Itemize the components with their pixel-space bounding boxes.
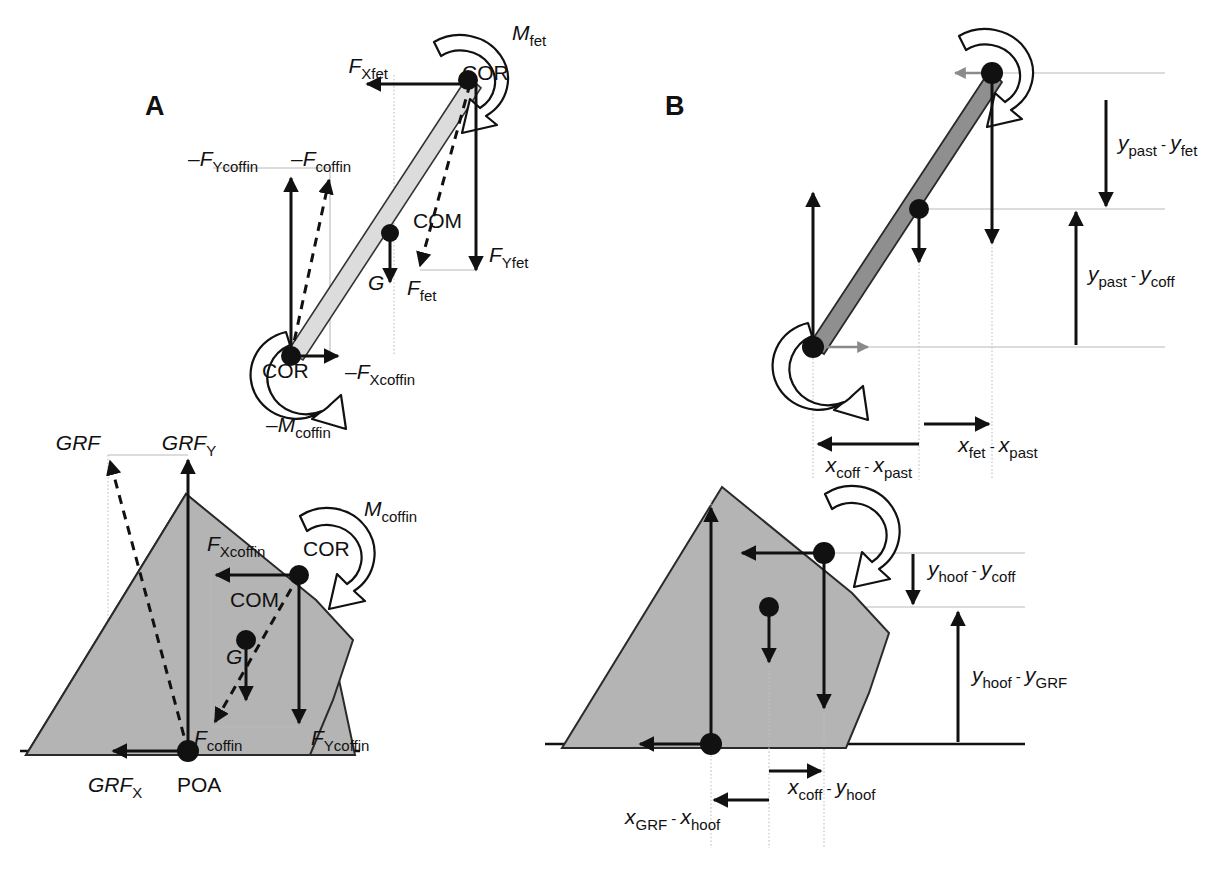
figure-canvas: A xyxy=(0,0,1212,870)
panel-b-bottom-diagram: yhoof - ycoff yhoof - yGRF xcoff - yhoof… xyxy=(545,486,1067,848)
label-moment-coffin: Mcoffin xyxy=(364,497,417,525)
label-gravity-hoof: G xyxy=(226,645,242,668)
label-force-coffin-neg: –Fcoffin xyxy=(291,147,351,175)
panel-b-top-diagram: ypast - yfet ypast - ycoff xcoff - xpast… xyxy=(773,29,1199,481)
label-arm-y-hoof-coff: yhoof - ycoff xyxy=(926,557,1016,585)
label-grf-x: GRFX xyxy=(88,773,142,801)
label-arm-x-fet-past: xfet - xpast xyxy=(957,433,1038,461)
panel-b-label: B xyxy=(665,91,685,121)
label-cor-proximal: COR xyxy=(462,61,509,84)
label-arm-x-coff-past: xcoff - xpast xyxy=(825,453,913,481)
node-coffin-hoof-b xyxy=(813,542,835,564)
panel-a-bottom-diagram: GRF GRFY GRFX POA COR COM Mcoffin FXcoff… xyxy=(20,431,417,801)
node-coffin-b xyxy=(802,336,824,358)
node-cor-hoof xyxy=(289,565,309,585)
moment-coffin-arc-b xyxy=(825,486,900,587)
label-cor-distal: COR xyxy=(262,359,309,382)
label-com-pastern: COM xyxy=(413,209,462,232)
label-force-x-coffin-neg: –FXcoffin xyxy=(345,360,415,388)
label-poa: POA xyxy=(177,773,221,796)
panel-b: B xyxy=(545,29,1198,848)
label-force-fetlock: Ffet xyxy=(407,276,437,304)
hoof-shape-b xyxy=(562,487,889,748)
label-arm-y-past-coff: ypast - ycoff xyxy=(1086,262,1175,290)
node-com-pastern xyxy=(381,224,399,242)
label-moment-fetlock: Mfet xyxy=(512,21,547,49)
node-poa-b xyxy=(700,733,722,755)
label-arm-y-hoof-grf: yhoof - yGRF xyxy=(970,663,1067,691)
label-arm-x-grf-hoof: xGRF - xhoof xyxy=(624,805,721,833)
figure-root: A xyxy=(0,0,1212,870)
label-gravity-top: G xyxy=(368,271,384,294)
label-arm-y-past-fet: ypast - yfet xyxy=(1116,131,1198,159)
label-arm-x-coff-hoof: xcoff - yhoof xyxy=(787,775,876,803)
panel-a-top-diagram: COR COM COR Mfet FXfet FYfet Ffet –FYcof… xyxy=(188,21,547,441)
node-com-hoof-b xyxy=(759,597,779,617)
node-fetlock-b xyxy=(981,62,1003,84)
label-force-x-fetlock: FXfet xyxy=(348,54,388,82)
node-com-pastern-b xyxy=(909,199,929,219)
label-cor-hoof: COR xyxy=(303,537,350,560)
label-grf-resultant: GRF xyxy=(56,431,102,454)
label-force-y-coffin-neg: –FYcoffin xyxy=(188,147,258,175)
panel-a-label: A xyxy=(145,91,165,121)
label-force-y-fetlock: FYfet xyxy=(489,243,529,271)
label-com-hoof: COM xyxy=(230,588,279,611)
pastern-bone-shape-b xyxy=(809,70,1002,354)
panel-a: A xyxy=(20,21,547,801)
